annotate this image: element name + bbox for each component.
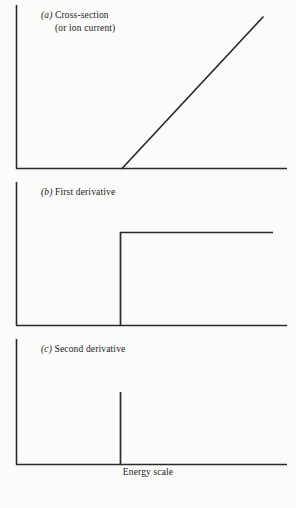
panel-c-plot xyxy=(0,330,296,508)
panel-b-step-curve xyxy=(121,233,274,326)
x-axis-caption: Energy scale xyxy=(0,467,296,477)
panel-c-label: (c) Second derivative xyxy=(41,343,125,356)
panel-c-tag: (c) xyxy=(41,344,52,354)
panel-c-label-line1: Second derivative xyxy=(55,344,126,354)
panel-b-tag: (b) xyxy=(41,187,53,197)
panel-b: (b) First derivative xyxy=(0,180,296,330)
panel-a-tag: (a) xyxy=(41,10,53,20)
panel-b-label-line1: First derivative xyxy=(55,187,115,197)
panel-b-plot xyxy=(0,180,296,330)
threshold-derivatives-figure: (a) Cross-section(or ion current) (b) Fi… xyxy=(0,0,296,508)
panel-a-ramp-curve xyxy=(122,17,263,169)
panel-a-label-line1: Cross-section xyxy=(55,10,109,20)
panel-b-label: (b) First derivative xyxy=(41,186,115,199)
panel-c: (c) Second derivative Energy scale xyxy=(0,330,296,508)
panel-a: (a) Cross-section(or ion current) xyxy=(0,0,296,180)
panel-a-label: (a) Cross-section(or ion current) xyxy=(41,9,115,34)
panel-a-label-line2: (or ion current) xyxy=(55,22,115,35)
